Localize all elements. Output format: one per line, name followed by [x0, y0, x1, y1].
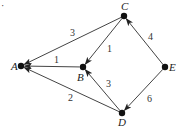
nodes-group: ABCDE — [10, 0, 176, 128]
node-d-label: D — [117, 116, 126, 128]
node-b-dot — [80, 64, 86, 70]
node-c-label: C — [121, 0, 129, 12]
node-b-label: B — [77, 71, 84, 83]
bullet-marker: · — [1, 0, 4, 11]
edge-weight-d-b: 3 — [106, 78, 111, 89]
node-e-label: E — [168, 61, 176, 73]
edge-e-c — [126, 19, 163, 65]
edges-group: 3121346 — [24, 17, 163, 111]
edge-c-a — [24, 17, 121, 64]
node-a-label: A — [10, 60, 18, 72]
node-a-dot — [18, 63, 24, 69]
edge-b-a — [25, 66, 80, 67]
edge-weight-c-a: 3 — [70, 27, 75, 38]
edge-weight-c-b: 1 — [107, 43, 112, 54]
edge-weight-e-d: 6 — [147, 93, 152, 104]
node-e-dot — [162, 64, 168, 70]
edge-weight-e-c: 4 — [148, 31, 153, 42]
edge-weight-d-a: 2 — [68, 92, 73, 103]
edge-d-a — [24, 68, 119, 112]
edge-weight-b-a: 1 — [54, 54, 59, 65]
graph-diagram: · 3121346 ABCDE — [0, 0, 178, 130]
edge-e-d — [125, 69, 163, 110]
node-c-dot — [121, 13, 127, 19]
